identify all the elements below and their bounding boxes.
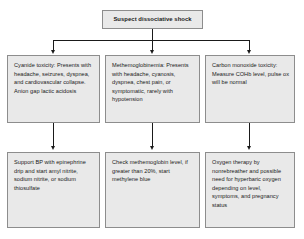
connector-methemoglobinemia-to-treatment — [152, 123, 153, 147]
treatment-box-cyanide: Support BP with epinephrine drip and sta… — [7, 152, 100, 228]
diagnosis-box-methemoglobinemia: Methemoglobinemia: Presents with headach… — [105, 55, 200, 123]
arrowhead-to-carbon-monoxide-treatment — [247, 146, 251, 150]
diagnosis-box-cyanide: Cyanide toxicity: Presents with headache… — [7, 55, 100, 123]
arrowhead-to-cyanide-treatment — [51, 146, 55, 150]
arrowhead-to-cyanide-box — [51, 50, 55, 54]
arrowhead-to-methemoglobinemia-box — [150, 50, 154, 54]
diagnosis-box-carbon-monoxide: Carbon monoxide toxicity: Measure COHb l… — [205, 55, 295, 123]
treatment-box-methemoglobinemia: Check methemoglobin level, if greater th… — [105, 152, 200, 228]
arrowhead-to-methemoglobinemia-treatment — [150, 146, 154, 150]
treatment-box-carbon-monoxide: Oxygen therapy by nonrebreather and poss… — [205, 152, 295, 228]
arrowhead-to-carbon-monoxide-box — [247, 50, 251, 54]
connector-cyanide-to-treatment — [53, 123, 54, 147]
root-node-suspect-dissociative-shock: Suspect dissociative shock — [102, 10, 203, 29]
dissociative-shock-flowchart: Suspect dissociative shock Cyanide toxic… — [0, 0, 304, 239]
connector-carbon-monoxide-to-treatment — [249, 123, 250, 147]
